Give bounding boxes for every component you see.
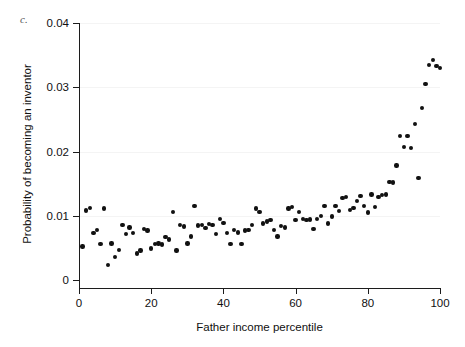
scatter-point	[431, 58, 435, 62]
scatter-point	[149, 246, 153, 250]
scatter-point	[319, 214, 323, 218]
scatter-point	[322, 204, 326, 208]
scatter-point	[427, 63, 431, 67]
scatter-point	[145, 228, 149, 232]
scatter-point	[98, 242, 102, 246]
scatter-point	[257, 210, 261, 214]
scatter-point	[113, 255, 117, 259]
scatter-point	[290, 205, 294, 209]
scatter-point	[117, 248, 121, 252]
scatter-point	[355, 199, 359, 203]
scatter-point	[225, 231, 229, 235]
scatter-point	[131, 231, 135, 235]
scatter-point	[214, 232, 218, 236]
scatter-point	[416, 176, 420, 180]
scatter-point	[189, 234, 193, 238]
scatter-point	[373, 205, 377, 209]
scatter-point	[308, 217, 312, 221]
scatter-point	[337, 209, 341, 213]
scatter-point	[203, 226, 207, 230]
scatter-point	[384, 192, 388, 196]
scatter-point	[239, 242, 243, 246]
scatter-point	[250, 223, 254, 227]
scatter-point	[405, 134, 409, 138]
scatter-point	[228, 242, 232, 246]
scatter-point	[333, 204, 337, 208]
scatter-point	[138, 248, 142, 252]
scatter-point	[366, 210, 370, 214]
scatter-point	[167, 237, 171, 241]
scatter-point	[398, 134, 402, 138]
scatter-point	[106, 263, 110, 267]
scatter-point	[438, 66, 442, 70]
scatter-point	[192, 204, 196, 208]
scatter-point	[358, 194, 362, 198]
scatter-point	[293, 218, 297, 222]
scatter-point	[171, 210, 175, 214]
scatter-point	[330, 214, 334, 218]
scatter-point	[95, 228, 99, 232]
scatter-point	[120, 223, 124, 227]
scatter-point	[174, 248, 178, 252]
scatter-point	[210, 223, 214, 227]
scatter-point	[362, 204, 366, 208]
scatter-point	[246, 228, 250, 232]
scatter-point	[275, 234, 279, 238]
scatter-point	[344, 195, 348, 199]
scatter-point	[351, 206, 355, 210]
scatter-point	[182, 224, 186, 228]
scatter-point	[236, 230, 240, 234]
scatter-point	[420, 106, 424, 110]
scatter-point	[391, 180, 395, 184]
scatter-point	[221, 221, 225, 225]
scatter-point	[272, 228, 276, 232]
scatter-point	[283, 225, 287, 229]
scatter-point	[185, 241, 189, 245]
scatter-point	[124, 232, 128, 236]
scatter-point	[402, 145, 406, 149]
scatter-point	[160, 242, 164, 246]
scatter-point	[413, 122, 417, 126]
scatter-plot-figure: c. Probability of becoming an inventor F…	[0, 0, 465, 347]
scatter-point	[409, 146, 413, 150]
scatter-point	[423, 82, 427, 86]
scatter-point	[297, 210, 301, 214]
scatter-point	[102, 206, 106, 210]
scatter-point	[88, 206, 92, 210]
scatter-point	[109, 241, 113, 245]
scatter-point	[80, 244, 84, 248]
scatter-point	[394, 163, 398, 167]
plot-area	[0, 0, 465, 347]
scatter-point	[311, 227, 315, 231]
scatter-point	[326, 221, 330, 225]
scatter-point	[268, 218, 272, 222]
scatter-point	[127, 225, 131, 229]
scatter-point	[369, 192, 373, 196]
